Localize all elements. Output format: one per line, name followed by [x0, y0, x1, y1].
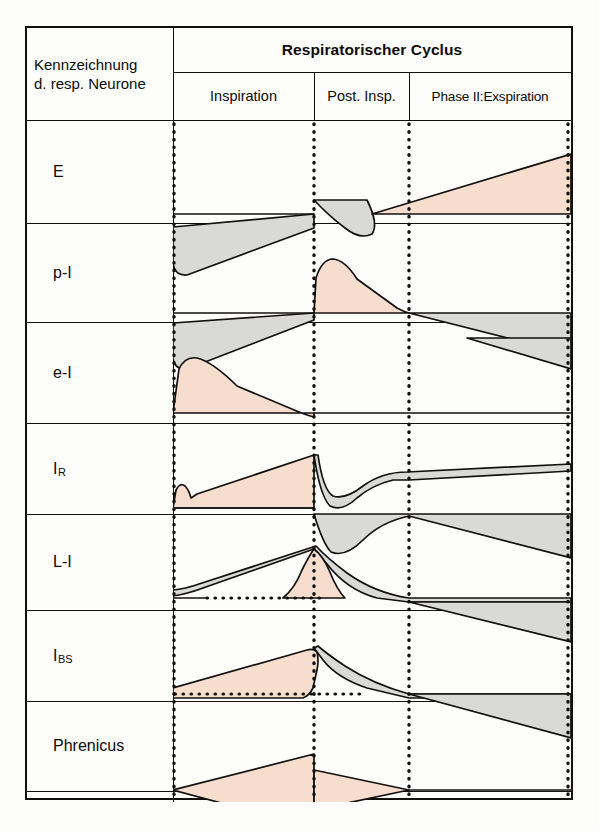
- trace-e-pink-expiration: [372, 154, 571, 214]
- trace-i-bs-gray-decay: [314, 646, 571, 698]
- waveform-layer: [27, 28, 571, 802]
- trace-l-i-gray-mound: [173, 546, 571, 602]
- trace-e-i-pink-inspiration: [173, 358, 314, 417]
- trace-phrenicus-pink-ramp: [173, 754, 314, 828]
- trace-p-i-gray-inspiration: [173, 214, 314, 275]
- trace-i-bs-gray-expiration: [409, 694, 571, 738]
- trace-i-r-gray-postinsp: [314, 455, 571, 508]
- trace-l-i-gray-postinsp-upper: [314, 514, 571, 558]
- trace-e-gray-postinsp: [314, 200, 375, 236]
- trace-e-i-gray-right: [467, 338, 571, 369]
- trace-l-i-gray-expiration: [409, 602, 571, 642]
- trace-phrenicus-pink-decay: [314, 770, 409, 810]
- trace-i-bs-pink-inspiration: [173, 649, 318, 698]
- diagram-frame: Kennzeichnung d. resp. Neurone Respirato…: [25, 26, 573, 800]
- trace-i-r-pink-inspiration: [173, 455, 314, 508]
- trace-p-i-pink-postinsp: [314, 259, 409, 313]
